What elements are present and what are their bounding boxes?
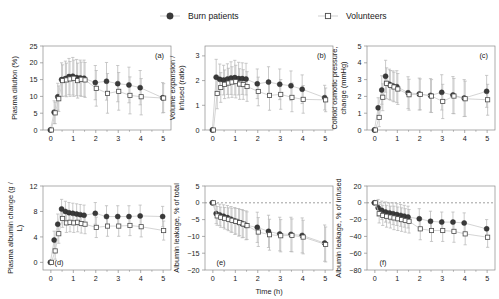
y-tick-label: −20 [187,266,199,275]
data-point-burn-patients [93,211,98,216]
data-point-volunteers [290,233,294,237]
data-point-volunteers [267,93,271,97]
legend-label-burn-patients: Burn patients [188,11,239,21]
y-tick-label: 0 [358,198,362,207]
data-point-volunteers [49,128,53,132]
data-point-volunteers [377,115,381,119]
data-point-volunteers [452,229,456,233]
data-point-volunteers [162,96,166,100]
y-tick-label: 5 [34,109,38,118]
data-point-volunteers [441,228,445,232]
data-point-volunteers [105,224,109,228]
y-tick-label: −15 [187,249,199,258]
panel-label: (a) [155,51,164,60]
x-tick-label: 5 [485,274,489,283]
data-point-volunteers [301,235,305,239]
panel-label: (e) [216,258,225,267]
y-tick-label: −10 [187,232,199,241]
data-point-volunteers [139,95,143,99]
x-tick-label: 0 [373,134,377,143]
data-point-burn-patients [160,214,165,219]
plot-frame [43,46,171,130]
data-point-burn-patients [82,213,87,218]
x-tick-label: 0 [49,274,53,283]
x-tick-label: 2 [94,134,98,143]
legend-label-volunteers: Volunteers [346,11,387,21]
x-tick-label: 3 [116,134,120,143]
legend-marker-burn-patients [167,13,173,19]
data-point-volunteers [128,93,132,97]
y-tick-label: 1 [358,109,362,118]
data-point-volunteers [57,97,61,101]
y-tick-label: 12 [30,182,38,191]
data-point-volunteers [117,224,121,228]
data-point-burn-patients [244,77,249,82]
y-tick-label: 0 [196,126,200,135]
x-tick-label: 5 [485,134,489,143]
x-tick-label: 3 [278,274,282,283]
data-point-burn-patients [376,105,381,110]
data-point-burn-patients [52,238,57,243]
data-point-burn-patients [288,83,293,88]
data-point-volunteers [215,91,219,95]
y-axis-label: Albumin leakage, % of total [172,183,181,273]
data-point-burn-patients [428,219,433,224]
x-tick-label: 1 [395,274,399,283]
legend: Burn patientsVolunteers [160,11,387,21]
data-point-volunteers [486,235,490,239]
y-axis-label: Plasma dilution (%) [10,56,19,120]
y-tick-label: −40 [349,232,361,241]
data-point-volunteers [162,228,166,232]
panel-f: 200−20−40−60−80012345(f)Albumin leakage,… [334,178,495,283]
data-point-burn-patients [104,214,109,219]
x-tick-label: 1 [395,134,399,143]
data-point-burn-patients [300,87,305,92]
x-tick-label: 2 [418,274,422,283]
y-tick-label: 2 [358,92,362,101]
figure-canvas: 0510152025012345(a)Plasma dilution (%)01… [0,0,499,299]
y-tick-label: −20 [349,215,361,224]
y-axis-label: Albumin leakage, % of infused [334,178,343,277]
data-point-volunteers [245,84,249,88]
data-point-volunteers [211,201,215,205]
data-point-volunteers [256,230,260,234]
y-tick-label: 3 [358,75,362,84]
data-point-volunteers [452,94,456,98]
data-point-volunteers [105,91,109,95]
data-point-volunteers [49,260,53,264]
data-point-burn-patients [104,79,109,84]
y-axis-label: Volume expansion / [168,55,177,120]
x-tick-label: 3 [440,274,444,283]
x-tick-label: 0 [373,274,377,283]
data-point-volunteers [128,223,132,227]
x-tick-label: 1 [71,134,75,143]
y-axis-label: infused (ratio) [177,65,186,110]
data-point-volunteers [463,232,467,236]
x-tick-label: 2 [256,134,260,143]
panel-e: 50−5−10−15−20012345(e)Albumin leakage, %… [172,182,333,296]
x-tick-label: 2 [94,274,98,283]
data-point-volunteers [94,86,98,90]
y-tick-label: 0 [196,198,200,207]
data-point-volunteers [301,97,305,101]
data-point-volunteers [279,92,283,96]
y-tick-label: 25 [30,42,38,51]
data-point-volunteers [290,95,294,99]
data-point-volunteers [407,93,411,97]
y-axis-label: Colloid osmotic pressure, [330,47,339,130]
y-tick-label: −80 [349,266,361,275]
y-tick-label: 0 [34,258,38,267]
data-point-volunteers [60,216,64,220]
y-tick-label: 0 [358,126,362,135]
x-tick-label: 1 [233,134,237,143]
x-tick-label: 3 [278,134,282,143]
y-axis-label: L) [15,225,24,232]
legend-marker-volunteers [325,13,330,18]
x-tick-label: 4 [139,274,143,283]
panel-label: (f) [380,258,387,267]
y-tick-label: 1 [196,101,200,110]
x-tick-label: 0 [211,134,215,143]
data-point-burn-patients [266,80,271,85]
data-point-burn-patients [383,74,388,79]
x-tick-label: 1 [233,274,237,283]
